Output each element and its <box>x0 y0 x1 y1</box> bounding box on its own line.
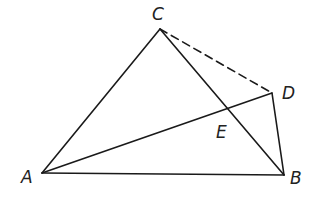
segment-AC <box>42 29 160 173</box>
label-D: D <box>282 83 295 103</box>
label-C: C <box>152 4 164 24</box>
label-B: B <box>290 168 302 188</box>
label-A: A <box>20 167 33 187</box>
segment-CD-dashed <box>160 29 272 93</box>
label-E: E <box>216 122 227 142</box>
geometry-diagram: C D E A B <box>0 0 321 206</box>
segment-AB <box>42 173 284 175</box>
segment-CB <box>160 29 284 175</box>
segment-AD <box>42 93 272 173</box>
